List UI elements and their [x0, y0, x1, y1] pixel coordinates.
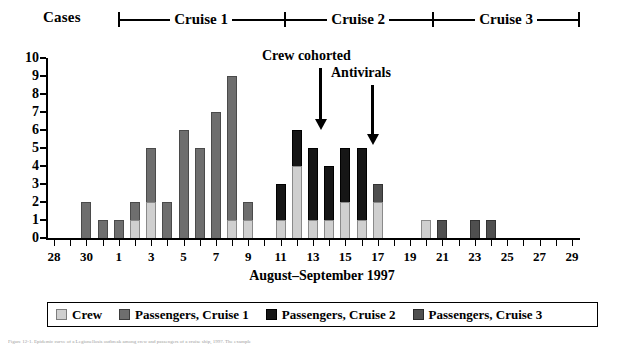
x-axis-tick	[540, 240, 541, 246]
x-axis-tick	[394, 240, 395, 246]
bar-segment-c3	[437, 220, 447, 238]
x-axis-tick-label: 28	[48, 249, 61, 265]
bar-segment-c1	[179, 130, 189, 238]
bar-31	[98, 220, 108, 238]
bar-segment-c2	[276, 184, 286, 220]
y-axis-tick-label: 1	[32, 215, 39, 225]
x-axis-tick-label: 19	[404, 249, 417, 265]
cruise-bracket-1: Cruise 1	[118, 9, 284, 29]
bar-segment-c1	[162, 202, 172, 238]
cruise-bracket-3: Cruise 3	[432, 9, 580, 29]
x-axis-tick	[572, 240, 573, 246]
bar-segment-crew	[357, 220, 367, 238]
bar-segment-c1	[211, 112, 221, 238]
bar-15	[340, 148, 350, 238]
bar-segment-c1	[130, 202, 140, 220]
x-axis-tick	[297, 240, 298, 246]
x-axis-tick	[264, 240, 265, 246]
bar-segment-c1	[243, 202, 253, 220]
x-axis-tick	[362, 240, 363, 246]
x-axis-tick-label: 30	[80, 249, 93, 265]
x-axis-tick-label: 1	[116, 249, 123, 265]
figure-caption: Figure 12-1. Epidemic curve of a Legione…	[8, 338, 638, 345]
x-axis-tick-label: 27	[533, 249, 546, 265]
y-axis-tick-label: 7	[32, 107, 39, 117]
x-axis-tick	[200, 240, 201, 246]
bar-segment-crew	[373, 202, 383, 238]
bar-16	[357, 148, 367, 238]
bar-segment-crew	[324, 220, 334, 238]
legend-label-c3: Passengers, Cruise 3	[429, 307, 543, 323]
cases-axis-label: Cases	[43, 9, 81, 26]
y-axis-tick	[40, 219, 46, 221]
y-axis-tick-label: 6	[32, 125, 39, 135]
y-axis-tick	[40, 93, 46, 95]
x-axis-tick-label: 21	[436, 249, 449, 265]
epidemic-curve-figure: Cases Cruise 1 Cruise 2 Cruise 3 0123456…	[0, 0, 644, 354]
bar-segment-crew	[340, 202, 350, 238]
bar-6	[195, 148, 205, 238]
x-axis-tick	[459, 240, 460, 246]
y-axis-tick	[40, 57, 46, 59]
x-axis-tick	[86, 240, 87, 246]
x-axis-tick	[54, 240, 55, 246]
x-axis-tick	[329, 240, 330, 246]
annotation-arrow-crew-cohorted	[319, 68, 322, 120]
bar-segment-crew	[146, 202, 156, 238]
bar-30	[81, 202, 91, 238]
x-axis-tick	[491, 240, 492, 246]
chart-legend: CrewPassengers, Cruise 1Passengers, Crui…	[47, 302, 598, 327]
bar-segment-c2	[292, 130, 302, 166]
x-axis-tick	[103, 240, 104, 246]
bar-segment-c1	[227, 76, 237, 220]
x-axis-tick-label: 3	[148, 249, 155, 265]
x-axis-tick-label: 29	[565, 249, 578, 265]
bar-segment-c2	[308, 148, 318, 220]
bar-segment-c1	[114, 220, 124, 238]
cruise-bracket-band: Cases Cruise 1 Cruise 2 Cruise 3	[0, 6, 644, 32]
x-axis-tick	[507, 240, 508, 246]
bar-segment-crew	[130, 220, 140, 238]
bar-segment-c3	[373, 184, 383, 202]
bar-24	[486, 220, 496, 238]
legend-item-c1: Passengers, Cruise 1	[119, 307, 249, 323]
x-axis-tick	[184, 240, 185, 246]
y-axis-tick-label: 4	[32, 161, 39, 171]
bar-4	[162, 202, 172, 238]
bracket-cap-left	[118, 12, 120, 27]
bar-segment-c1	[98, 220, 108, 238]
bar-segment-crew	[308, 220, 318, 238]
x-axis-tick	[475, 240, 476, 246]
x-axis-tick	[426, 240, 427, 246]
bar-segment-c3	[470, 220, 480, 238]
y-axis-tick-label: 8	[32, 89, 39, 99]
y-axis-tick-label: 10	[25, 53, 39, 63]
bar-1	[114, 220, 124, 238]
bar-9	[243, 202, 253, 238]
bar-3	[146, 148, 156, 238]
bar-segment-crew	[243, 220, 253, 238]
annotation-label-antivirals: Antivirals	[331, 65, 391, 81]
x-axis-tick	[523, 240, 524, 246]
y-axis-tick-label: 0	[32, 233, 39, 243]
legend-label-c1: Passengers, Cruise 1	[135, 307, 249, 323]
bar-2	[130, 202, 140, 238]
bracket-cap-left	[284, 12, 286, 27]
y-axis-tick-label: 5	[32, 143, 39, 153]
x-axis-tick	[378, 240, 379, 246]
bar-segment-c2	[324, 166, 334, 220]
bar-17	[373, 184, 383, 238]
bar-segment-c1	[81, 202, 91, 238]
bracket-cap-left	[432, 12, 434, 27]
x-axis-tick	[151, 240, 152, 246]
y-axis-tick	[40, 237, 46, 239]
bar-20	[421, 220, 431, 238]
y-axis-tick	[40, 201, 46, 203]
x-axis-tick	[556, 240, 557, 246]
y-axis-line	[46, 58, 48, 238]
x-axis-tick-label: 13	[307, 249, 320, 265]
x-axis-tick-label: 9	[245, 249, 252, 265]
x-axis-tick-label: 7	[213, 249, 220, 265]
x-axis-tick	[70, 240, 71, 246]
cruise-bracket-label: Cruise 2	[327, 11, 389, 27]
